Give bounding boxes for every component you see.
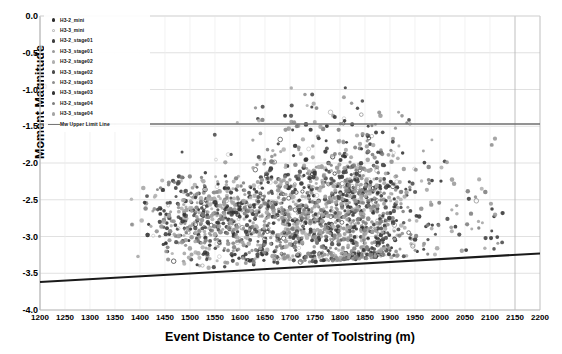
legend-item-label: H3-3_stage03 xyxy=(60,90,93,95)
legend-item-label: H3-2_mini xyxy=(60,18,84,23)
legend-item[interactable]: H3-3_mini xyxy=(47,25,147,35)
legend-item[interactable]: H3-2_stage03 xyxy=(47,77,147,87)
legend-dot-icon xyxy=(47,70,60,74)
legend-item[interactable]: H3-3_stage02 xyxy=(47,67,147,77)
legend-item[interactable]: H3-2_stage02 xyxy=(47,57,147,67)
legend-item-label: H3-3_mini xyxy=(60,28,84,33)
legend-dot-icon xyxy=(47,18,60,22)
legend-item[interactable]: H3-3_stage04 xyxy=(47,109,147,119)
legend-item[interactable]: H3-3_stage01 xyxy=(47,46,147,56)
legend-item-label: H3-3_stage02 xyxy=(60,70,93,75)
legend-dot-icon xyxy=(47,29,60,33)
legend-dot-icon xyxy=(47,39,60,43)
legend-dot-icon xyxy=(47,50,60,54)
data-points xyxy=(130,86,505,270)
legend-item-label: H3-2_stage02 xyxy=(60,59,93,64)
chart-legend: H3-2_miniH3-3_miniH3-2_stage01H3-3_stage… xyxy=(44,13,150,132)
legend-item-label: H3-3_stage04 xyxy=(60,111,93,116)
legend-item[interactable]: H3-3_stage03 xyxy=(47,88,147,98)
legend-dot-icon xyxy=(47,112,60,116)
legend-item-label: H3-2_stage04 xyxy=(60,101,93,106)
series-H3-3_stage03 xyxy=(143,114,505,267)
scatter-chart: Moment Magnitude Event Distance to Cente… xyxy=(0,0,562,354)
legend-item[interactable]: H3-2_mini xyxy=(47,15,147,25)
legend-dot-icon xyxy=(47,102,60,106)
legend-item[interactable]: Mw Upper Limit Line xyxy=(47,119,147,129)
legend-item-label: Mw Upper Limit Line xyxy=(60,122,110,127)
legend-item[interactable]: H3-2_stage04 xyxy=(47,98,147,108)
legend-item-label: H3-2_stage03 xyxy=(60,80,93,85)
legend-item[interactable]: H3-2_stage01 xyxy=(47,36,147,46)
legend-line-icon xyxy=(47,124,60,125)
legend-item-label: H3-2_stage01 xyxy=(60,38,93,43)
legend-dot-icon xyxy=(47,60,60,64)
legend-dot-icon xyxy=(47,81,60,85)
legend-dot-icon xyxy=(47,91,60,95)
legend-item-label: H3-3_stage01 xyxy=(60,49,93,54)
